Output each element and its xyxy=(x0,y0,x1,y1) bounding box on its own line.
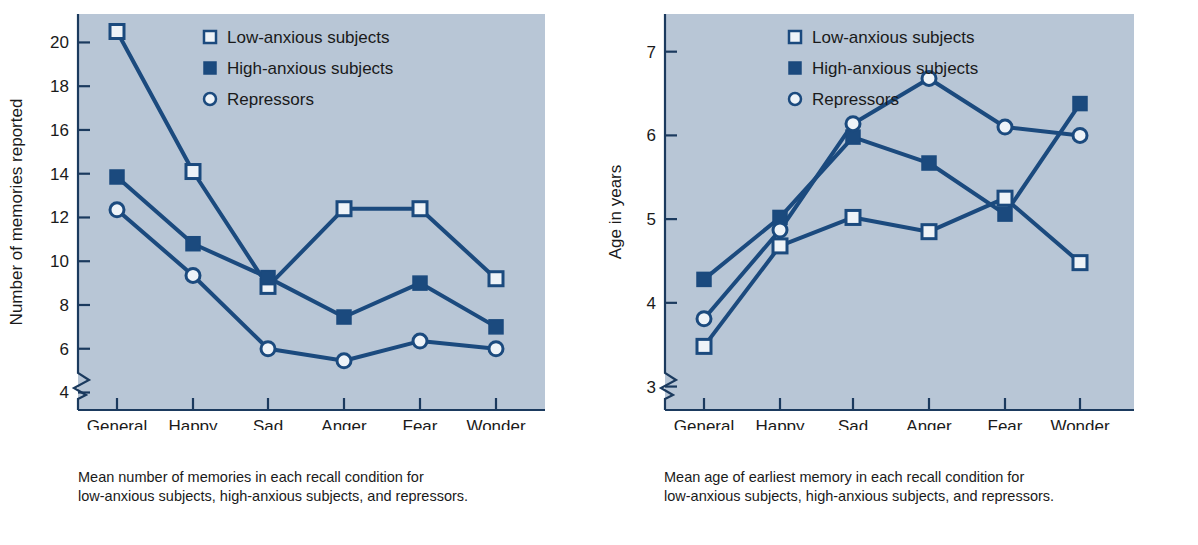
legend-label-2: Repressors xyxy=(227,90,314,109)
legend-label-1: High-anxious subjects xyxy=(227,59,393,78)
legend-label-0: Low-anxious subjects xyxy=(812,28,975,47)
legend-filled-square-icon xyxy=(789,62,801,74)
marker-open-circle xyxy=(773,223,787,237)
x-tick-label-general: General xyxy=(674,417,734,430)
legend-open-square-icon xyxy=(204,31,216,43)
marker-open-square xyxy=(337,202,351,216)
y-tick-label: 6 xyxy=(647,126,656,145)
x-tick-label-general: General xyxy=(87,417,147,430)
y-tick-label: 20 xyxy=(50,33,69,52)
x-tick-label-anger: Anger xyxy=(321,417,367,430)
marker-filled-square xyxy=(110,170,124,184)
marker-open-square xyxy=(922,225,936,239)
marker-filled-square xyxy=(186,237,200,251)
marker-filled-square xyxy=(489,320,503,334)
marker-open-circle xyxy=(110,203,124,217)
marker-open-square xyxy=(1073,256,1087,270)
x-tick-label-sad: Sad xyxy=(838,417,868,430)
y-tick-label: 7 xyxy=(647,43,656,62)
legend-open-circle-icon xyxy=(789,93,801,105)
x-tick-label-fear: Fear xyxy=(988,417,1023,430)
legend-label-1: High-anxious subjects xyxy=(812,59,978,78)
y-tick-label: 8 xyxy=(60,296,69,315)
marker-filled-square xyxy=(922,156,936,170)
y-tick-label: 10 xyxy=(50,252,69,271)
marker-open-square xyxy=(846,210,860,224)
legend-open-circle-icon xyxy=(204,93,216,105)
x-tick-label-wonder: Wonder xyxy=(1050,417,1110,430)
marker-open-square xyxy=(998,191,1012,205)
marker-open-circle xyxy=(697,312,711,326)
marker-filled-square xyxy=(261,271,275,285)
y-axis-title: Number of memories reported xyxy=(7,99,26,326)
marker-open-circle xyxy=(261,342,275,356)
y-tick-label: 6 xyxy=(60,340,69,359)
line-chart-memories: 468101214161820Number of memories report… xyxy=(0,0,599,430)
y-tick-label: 4 xyxy=(60,383,69,402)
marker-open-square xyxy=(489,272,503,286)
marker-open-circle xyxy=(186,268,200,282)
marker-open-square xyxy=(110,25,124,39)
marker-open-square xyxy=(697,339,711,353)
y-tick-label: 5 xyxy=(647,210,656,229)
marker-open-square xyxy=(186,165,200,179)
y-tick-label: 12 xyxy=(50,208,69,227)
x-tick-label-wonder: Wonder xyxy=(466,417,526,430)
marker-filled-square xyxy=(1073,97,1087,111)
marker-filled-square xyxy=(337,310,351,324)
marker-open-circle xyxy=(846,117,860,131)
x-tick-label-happy: Happy xyxy=(168,417,218,430)
marker-open-circle xyxy=(413,334,427,348)
marker-open-circle xyxy=(998,120,1012,134)
marker-open-square xyxy=(413,202,427,216)
chart-panel-left: 468101214161820Number of memories report… xyxy=(0,0,599,545)
x-tick-label-fear: Fear xyxy=(403,417,438,430)
caption-right: Mean age of earliest memory in each reca… xyxy=(664,468,1194,506)
marker-filled-square xyxy=(697,272,711,286)
y-tick-label: 3 xyxy=(647,378,656,397)
y-tick-label: 18 xyxy=(50,77,69,96)
caption-left: Mean number of memories in each recall c… xyxy=(78,468,578,506)
legend-filled-square-icon xyxy=(204,62,216,74)
y-tick-label: 16 xyxy=(50,121,69,140)
x-tick-label-anger: Anger xyxy=(906,417,952,430)
line-chart-age: 34567Age in yearsGeneralHappySadAngerFea… xyxy=(599,0,1198,430)
legend-open-square-icon xyxy=(789,31,801,43)
marker-open-circle xyxy=(489,342,503,356)
marker-open-circle xyxy=(1073,128,1087,142)
marker-open-square xyxy=(773,239,787,253)
figure-root: 468101214161820Number of memories report… xyxy=(0,0,1198,545)
legend-label-2: Repressors xyxy=(812,90,899,109)
x-tick-label-sad: Sad xyxy=(253,417,283,430)
marker-filled-square xyxy=(413,276,427,290)
chart-panel-right: 34567Age in yearsGeneralHappySadAngerFea… xyxy=(599,0,1198,545)
y-tick-label: 14 xyxy=(50,165,69,184)
legend-label-0: Low-anxious subjects xyxy=(227,28,390,47)
marker-filled-square xyxy=(998,207,1012,221)
y-axis-title: Age in years xyxy=(606,165,625,260)
x-tick-label-happy: Happy xyxy=(755,417,805,430)
marker-open-circle xyxy=(337,354,351,368)
y-tick-label: 4 xyxy=(647,294,656,313)
